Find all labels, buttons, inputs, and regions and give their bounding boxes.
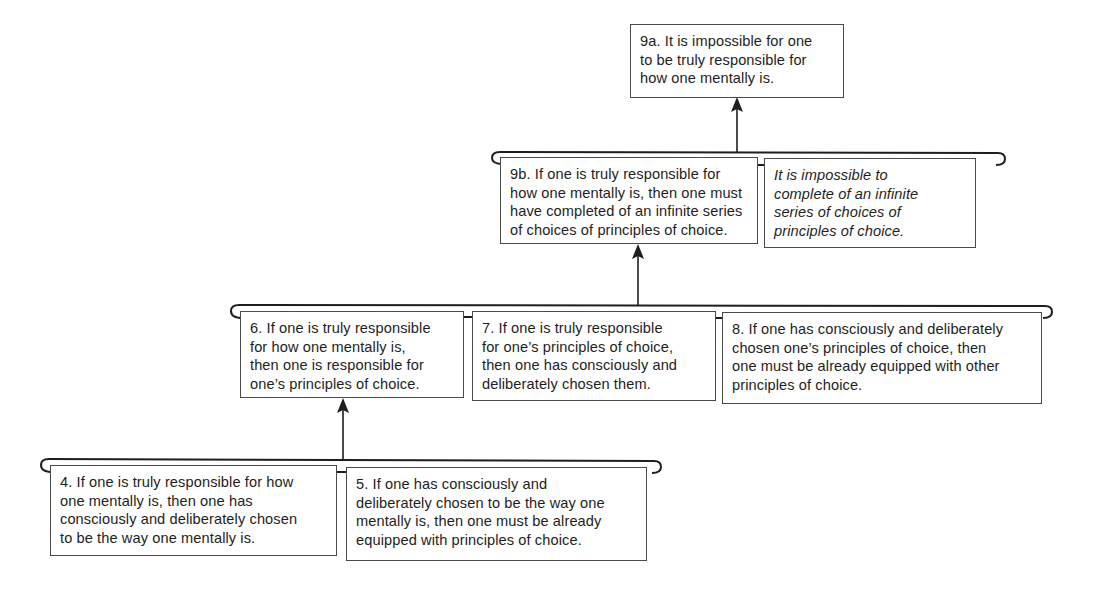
node-9a-conclusion: 9a. It is impossible for one to be truly… — [630, 24, 844, 98]
node-4-line-4: to be the way one mentally is. — [60, 529, 327, 548]
node-4: 4. If one is truly responsible for how o… — [50, 465, 337, 556]
node-9b-line-2: how one mentally is, then one must — [510, 184, 748, 203]
node-8-line-3: one must be already equipped with other — [732, 357, 1032, 376]
node-9a-line-2: to be truly responsible for — [640, 51, 834, 70]
node-8-line-2: chosen one’s principles of choice, then — [732, 339, 1032, 358]
node-9a-line-1: 9a. It is impossible for one — [640, 32, 834, 51]
node-9b-line-4: of choices of principles of choice. — [510, 221, 748, 240]
node-9a-line-3: how one mentally is. — [640, 69, 834, 88]
node-5: 5. If one has consciously and deliberate… — [346, 467, 647, 561]
node-4-line-3: consciously and deliberately chosen — [60, 510, 327, 529]
node-8: 8. If one has consciously and deliberate… — [722, 312, 1042, 404]
node-7: 7. If one is truly responsible for one’s… — [472, 311, 716, 401]
node-8-line-4: principles of choice. — [732, 376, 1032, 395]
node-9b-premise-line-1: It is impossible to — [774, 166, 966, 185]
node-4-line-2: one mentally is, then one has — [60, 492, 327, 511]
node-5-line-4: equipped with principles of choice. — [356, 531, 637, 550]
arrow-to-6 — [337, 398, 349, 459]
node-6-line-3: then one is responsible for — [250, 356, 454, 375]
node-5-line-3: mentally is, then one must be already — [356, 512, 637, 531]
arrow-to-9a — [731, 97, 743, 152]
node-7-line-2: for one’s principles of choice, — [482, 338, 706, 357]
node-9b-premise-line-3: series of choices of — [774, 203, 966, 222]
node-4-line-1: 4. If one is truly responsible for how — [60, 473, 327, 492]
node-9b-premise-line-4: principles of choice. — [774, 222, 966, 241]
node-7-line-3: then one has consciously and — [482, 356, 706, 375]
node-6-line-2: for how one mentally is, — [250, 338, 454, 357]
node-8-line-1: 8. If one has consciously and deliberate… — [732, 320, 1032, 339]
node-9b-premise: It is impossible to complete of an infin… — [764, 158, 976, 248]
node-6: 6. If one is truly responsible for how o… — [240, 311, 464, 398]
arrow-to-9b — [632, 244, 644, 305]
node-6-line-1: 6. If one is truly responsible — [250, 319, 454, 338]
node-7-line-4: deliberately chosen them. — [482, 375, 706, 394]
node-5-line-2: deliberately chosen to be the way one — [356, 494, 637, 513]
node-9b-premise-line-2: complete of an infinite — [774, 185, 966, 204]
argument-diagram: 9a. It is impossible for one to be truly… — [0, 0, 1103, 602]
node-9b: 9b. If one is truly responsible for how … — [500, 157, 758, 244]
node-7-line-1: 7. If one is truly responsible — [482, 319, 706, 338]
node-5-line-1: 5. If one has consciously and — [356, 475, 637, 494]
node-9b-line-3: have completed of an infinite series — [510, 202, 748, 221]
node-9b-line-1: 9b. If one is truly responsible for — [510, 165, 748, 184]
node-6-line-4: one’s principles of choice. — [250, 375, 454, 394]
